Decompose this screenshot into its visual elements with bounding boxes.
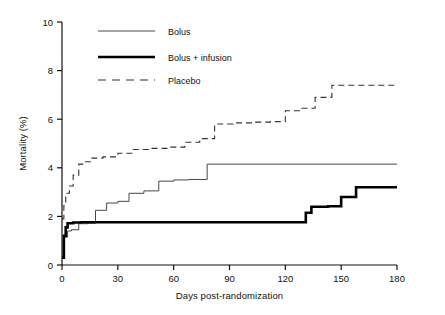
y-axis-tick-label: 10	[42, 17, 53, 28]
mortality-chart-figure: 02468100306090120150180 BolusBolus + inf…	[0, 0, 445, 315]
x-axis-tick-label: 30	[113, 273, 124, 284]
series-line-0	[62, 164, 397, 256]
y-axis-tick-label: 2	[48, 211, 53, 222]
x-axis-title: Days post-randomization	[176, 290, 283, 301]
x-axis-tick-label: 120	[277, 273, 293, 284]
axis-titles: Days post-randomizationMortality (%)	[17, 116, 283, 301]
chart-canvas: 02468100306090120150180 BolusBolus + inf…	[0, 0, 445, 315]
legend-label-2: Placebo	[168, 76, 201, 86]
y-axis-title: Mortality (%)	[17, 116, 28, 171]
x-axis-tick-label: 0	[59, 273, 64, 284]
y-axis-tick-label: 0	[48, 260, 53, 271]
x-axis-tick-label: 150	[333, 273, 349, 284]
x-axis-tick-label: 60	[168, 273, 179, 284]
x-axis-tick-label: 90	[224, 273, 235, 284]
x-axis-tick-label: 180	[389, 273, 405, 284]
legend-label-0: Bolus	[168, 27, 191, 37]
chart-legend: BolusBolus + infusionPlacebo	[98, 27, 232, 86]
series-line-2	[62, 85, 397, 219]
data-series	[62, 85, 397, 258]
series-line-1	[62, 187, 397, 257]
y-axis-tick-label: 8	[48, 65, 53, 76]
legend-label-1: Bolus + infusion	[168, 53, 232, 63]
y-axis-tick-label: 6	[48, 114, 53, 125]
y-axis-tick-label: 4	[48, 162, 53, 173]
